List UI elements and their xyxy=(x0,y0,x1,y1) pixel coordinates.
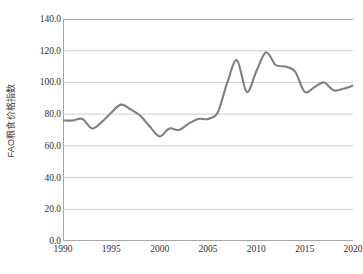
plot-area xyxy=(63,19,353,241)
y-axis-tick-label: 80.0 xyxy=(19,109,61,119)
y-axis-tick-label: 100.0 xyxy=(19,77,61,87)
y-axis-tick-label: 60.0 xyxy=(19,141,61,151)
x-axis-tick-label: 1990 xyxy=(41,243,85,256)
y-axis-tick-label: 140.0 xyxy=(19,14,61,24)
chart-container: FAO粮食价格指数 0.020.040.060.080.0100.0120.01… xyxy=(0,0,363,274)
x-axis-tick-label: 2005 xyxy=(186,243,230,256)
gridlines xyxy=(63,51,353,210)
axis-lines xyxy=(63,19,353,241)
x-axis-tick-labels: 1990199520002005201020152020 xyxy=(63,243,353,261)
y-axis-tick-label: 20.0 xyxy=(19,204,61,214)
data-line xyxy=(63,52,353,136)
y-axis-tick-labels: 0.020.040.060.080.0100.0120.0140.0 xyxy=(16,0,61,241)
plot-svg xyxy=(63,19,353,241)
x-axis-tick-label: 2010 xyxy=(234,243,278,256)
y-axis-tick-label: 40.0 xyxy=(19,173,61,183)
x-axis-tick-label: 1995 xyxy=(89,243,133,256)
y-axis-tick-label: 120.0 xyxy=(19,46,61,56)
x-axis-tick-label: 2020 xyxy=(331,243,363,256)
data-series-group xyxy=(63,52,353,136)
x-axis-tick-label: 2000 xyxy=(138,243,182,256)
x-axis-tick-label: 2015 xyxy=(283,243,327,256)
